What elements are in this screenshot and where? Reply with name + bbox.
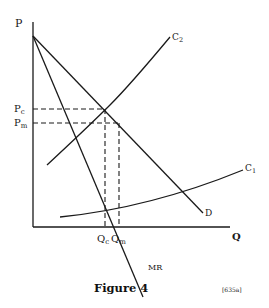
figure-caption: Figure 4: [94, 281, 148, 295]
qm-label: Qm: [111, 233, 126, 246]
mr-label: MR: [148, 263, 163, 272]
c1-label: C1: [245, 163, 256, 175]
demand-curve: [33, 36, 203, 213]
figure-reference: [635a]: [222, 286, 242, 293]
pc-label: Pc: [14, 103, 25, 116]
cost-curve-c1: [60, 170, 243, 217]
x-axis-label: Q: [232, 231, 241, 242]
y-axis-label: P: [15, 17, 23, 30]
marginal-revenue-curve: [33, 36, 143, 297]
cost-curve-c2: [47, 37, 170, 165]
c2-label: C2: [172, 32, 183, 44]
pm-label: Pm: [14, 117, 28, 130]
demand-label: D: [205, 208, 212, 218]
qc-label: Qc: [97, 233, 109, 246]
economics-diagram: P Q Pc Pm Qc Qm D MR C2 C1 Figure 4 [635…: [0, 0, 269, 308]
